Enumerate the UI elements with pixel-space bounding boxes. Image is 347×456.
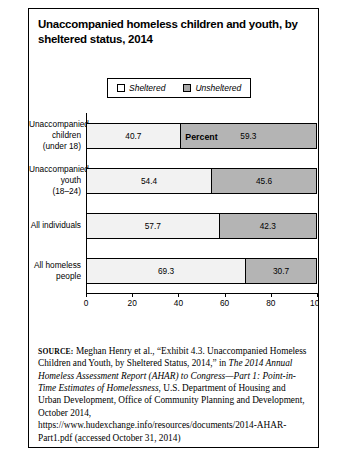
legend-swatch-sheltered-icon (117, 84, 125, 92)
bar-segment-unsheltered: 42.3 (219, 214, 316, 238)
chart-bar-row: All homelesspeople69.330.7 (29, 248, 319, 293)
chart-legend: Sheltered Unsheltered (107, 78, 251, 98)
source-note: SOURCE: Meghan Henry et al., “Exhibit 4.… (38, 345, 310, 444)
stacked-bar: 69.330.7 (86, 258, 317, 284)
x-axis-tick-label: 100 (310, 298, 319, 308)
x-axis-title: Percent (86, 132, 317, 142)
legend-item-sheltered: Sheltered (117, 83, 165, 93)
legend-label-sheltered: Sheltered (129, 83, 165, 93)
bar-segment-unsheltered: 30.7 (245, 259, 316, 283)
chart-bar-row: Unaccompaniedyouth(18–24)54.445.6 (29, 158, 319, 203)
x-axis-tick-label: 0 (84, 298, 89, 308)
x-axis-ticks: 020406080100 (29, 293, 319, 333)
chart-bar-row: All individuals57.742.3 (29, 203, 319, 248)
bar-segment-sheltered: 69.3 (87, 259, 245, 283)
x-axis-tick-mark (178, 293, 179, 297)
stacked-bar: 57.742.3 (86, 213, 317, 239)
legend-item-unsheltered: Unsheltered (183, 83, 241, 93)
x-axis-tick-mark (86, 293, 87, 297)
chart-plot-area: Unaccompaniedchildren(under 18)40.759.3U… (29, 113, 319, 338)
bar-segment-sheltered: 57.7 (87, 214, 219, 238)
x-axis-tick-label: 60 (220, 298, 229, 308)
bar-segment-unsheltered: 45.6 (211, 169, 316, 193)
legend-label-unsheltered: Unsheltered (195, 83, 241, 93)
x-axis-tick-label: 40 (174, 298, 183, 308)
bar-segment-sheltered: 54.4 (87, 169, 211, 193)
bar-category-label: All individuals (29, 203, 81, 248)
x-axis-tick-mark (271, 293, 272, 297)
source-note-label: SOURCE: (38, 347, 74, 356)
figure-panel: Unaccompanied homeless children and yout… (28, 8, 319, 448)
bar-category-label: Unaccompaniedyouth(18–24) (29, 158, 81, 203)
x-axis-tick-label: 20 (128, 298, 137, 308)
page-title: Unaccompanied homeless children and yout… (38, 17, 310, 46)
legend-swatch-unsheltered-icon (183, 84, 191, 92)
x-axis-tick-label: 80 (266, 298, 275, 308)
x-axis-tick-mark (317, 293, 318, 297)
x-axis-tick-mark (225, 293, 226, 297)
bar-category-label: Unaccompaniedchildren(under 18) (29, 113, 81, 158)
bar-category-label: All homelesspeople (29, 248, 81, 293)
x-axis-tick-mark (132, 293, 133, 297)
stacked-bar: 54.445.6 (86, 168, 317, 194)
